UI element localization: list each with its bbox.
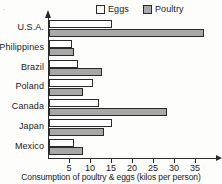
category-label-japan: Japan bbox=[0, 121, 44, 131]
category-label-usa: U.S.A. bbox=[0, 22, 44, 32]
bar-eggs bbox=[49, 119, 112, 127]
bar-eggs bbox=[49, 40, 72, 48]
category-label-philippines: Philippines bbox=[0, 42, 44, 52]
category-label-mexico: Mexico bbox=[0, 141, 44, 151]
bar-poultry bbox=[49, 147, 83, 155]
bar-poultry bbox=[49, 68, 102, 76]
bar-eggs bbox=[49, 99, 99, 107]
legend-swatch-poultry-icon bbox=[143, 5, 152, 14]
legend-entry-eggs: Eggs bbox=[96, 4, 129, 14]
plot-area bbox=[48, 18, 222, 158]
bar-poultry bbox=[49, 128, 104, 136]
bar-eggs bbox=[49, 79, 93, 87]
legend-swatch-eggs-icon bbox=[96, 5, 105, 14]
x-axis-title: Consumption of poultry & eggs (kilos per… bbox=[0, 172, 222, 182]
category-label-brazil: Brazil bbox=[0, 62, 44, 72]
legend-label-eggs: Eggs bbox=[108, 4, 129, 14]
category-label-canada: Canada bbox=[0, 101, 44, 111]
chart-legend: Eggs Poultry bbox=[96, 4, 184, 14]
bar-eggs bbox=[49, 20, 112, 28]
corner-mark: . bbox=[3, 4, 5, 11]
legend-label-poultry: Poultry bbox=[155, 4, 184, 14]
bar-poultry bbox=[49, 88, 83, 96]
x-axis-line bbox=[48, 158, 218, 159]
bar-chart: . Eggs Poultry U.S.A.PhilippinesBrazilPo… bbox=[0, 0, 222, 184]
bar-poultry bbox=[49, 108, 167, 116]
bar-eggs bbox=[49, 139, 74, 147]
category-label-poland: Poland bbox=[0, 81, 44, 91]
bar-poultry bbox=[49, 29, 204, 37]
x-axis-arrow-icon bbox=[216, 155, 222, 161]
bar-eggs bbox=[49, 60, 78, 68]
legend-entry-poultry: Poultry bbox=[143, 4, 184, 14]
bar-poultry bbox=[49, 48, 74, 56]
